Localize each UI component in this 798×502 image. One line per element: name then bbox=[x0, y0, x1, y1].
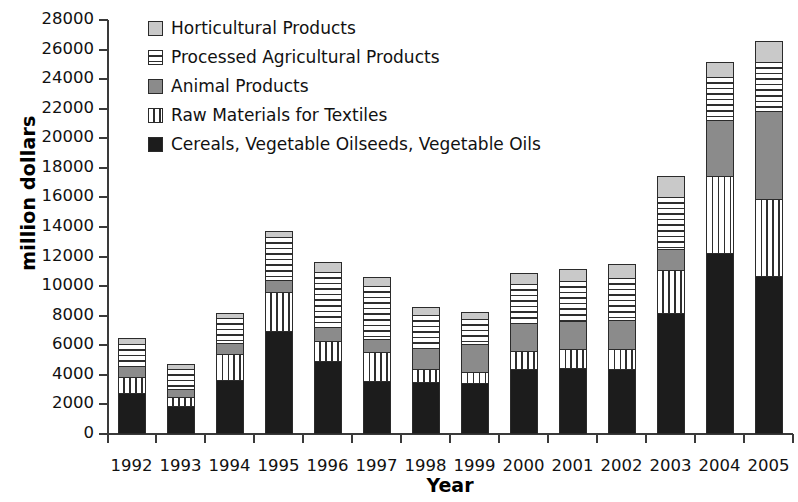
legend-swatch-icon bbox=[148, 79, 163, 94]
x-axis-tick-label: 1997 bbox=[356, 456, 398, 475]
stacked-bar-chart: million dollars 020004000600080001000012… bbox=[0, 0, 798, 502]
x-axis-tick bbox=[302, 434, 304, 443]
bar-segment bbox=[363, 352, 391, 382]
bar-segment bbox=[559, 321, 587, 349]
bar-segment bbox=[265, 331, 293, 434]
x-axis-tick-label: 1996 bbox=[307, 456, 349, 475]
bar-segment bbox=[706, 77, 734, 121]
y-axis-tick-label: 24000 bbox=[42, 68, 95, 87]
bar-segment bbox=[167, 369, 195, 391]
y-axis-title: million dollars bbox=[17, 93, 39, 293]
bar-segment bbox=[510, 284, 538, 323]
y-axis-tick-label: 20000 bbox=[42, 127, 95, 146]
bar-segment bbox=[510, 369, 538, 434]
bar-segment bbox=[559, 269, 587, 283]
legend-item: Processed Agricultural Products bbox=[148, 43, 541, 72]
bar-segment bbox=[755, 199, 783, 277]
legend-item: Raw Materials for Textiles bbox=[148, 101, 541, 130]
bar-segment bbox=[412, 369, 440, 383]
bar-segment bbox=[559, 368, 587, 434]
bar-segment bbox=[559, 349, 587, 369]
x-axis-title: Year bbox=[107, 474, 793, 496]
y-axis-tick-label: 6000 bbox=[52, 334, 94, 353]
x-axis-tick bbox=[351, 434, 353, 443]
bar-segment bbox=[363, 286, 391, 340]
x-axis-tick bbox=[645, 434, 647, 443]
bar-2005 bbox=[755, 42, 783, 434]
bar-2001 bbox=[559, 270, 587, 434]
bar-1998 bbox=[412, 308, 440, 434]
bar-segment bbox=[559, 281, 587, 322]
x-axis-tick-label: 2005 bbox=[748, 456, 790, 475]
bar-1997 bbox=[363, 278, 391, 434]
x-axis-tick-label: 2000 bbox=[503, 456, 545, 475]
bar-segment bbox=[755, 41, 783, 63]
legend-swatch-icon bbox=[148, 50, 163, 65]
x-axis-tick-label: 1998 bbox=[405, 456, 447, 475]
x-axis-tick bbox=[547, 434, 549, 443]
y-axis-tick: 6000 bbox=[99, 344, 108, 346]
legend-swatch-icon bbox=[148, 21, 163, 36]
bar-segment bbox=[755, 276, 783, 434]
bar-segment bbox=[657, 270, 685, 314]
y-axis-tick: 10000 bbox=[99, 285, 108, 287]
legend-swatch-icon bbox=[148, 137, 163, 152]
x-axis-tick bbox=[743, 434, 745, 443]
y-axis-tick: 14000 bbox=[99, 226, 108, 228]
chart-legend: Horticultural ProductsProcessed Agricult… bbox=[148, 14, 541, 159]
x-axis-tick bbox=[253, 434, 255, 443]
bar-segment bbox=[118, 393, 146, 434]
y-axis-tick: 22000 bbox=[99, 108, 108, 110]
bar-2004 bbox=[706, 63, 734, 434]
x-axis-tick bbox=[694, 434, 696, 443]
y-axis-tick: 18000 bbox=[99, 167, 108, 169]
bar-segment bbox=[461, 344, 489, 373]
x-axis-tick bbox=[204, 434, 206, 443]
y-axis-tick-label: 10000 bbox=[42, 275, 95, 294]
bar-2002 bbox=[608, 265, 636, 434]
bar-segment bbox=[314, 361, 342, 434]
y-axis-tick: 8000 bbox=[99, 315, 108, 317]
y-axis-tick-label: 18000 bbox=[42, 157, 95, 176]
x-axis-tick bbox=[155, 434, 157, 443]
legend-swatch-icon bbox=[148, 108, 163, 123]
legend-item-label: Raw Materials for Textiles bbox=[171, 106, 387, 125]
bar-segment bbox=[118, 344, 146, 368]
bar-segment bbox=[412, 348, 440, 370]
bar-1993 bbox=[167, 365, 195, 434]
bar-segment bbox=[314, 272, 342, 328]
y-axis-tick: 24000 bbox=[99, 78, 108, 80]
x-axis-tick bbox=[498, 434, 500, 443]
bar-segment bbox=[265, 292, 293, 332]
legend-item: Horticultural Products bbox=[148, 14, 541, 43]
x-axis-tick bbox=[596, 434, 598, 443]
legend-item-label: Cereals, Vegetable Oilseeds, Vegetable O… bbox=[171, 135, 541, 154]
y-axis-tick: 28000 bbox=[99, 19, 108, 21]
bar-segment bbox=[657, 249, 685, 271]
x-axis-tick bbox=[400, 434, 402, 443]
bar-segment bbox=[608, 264, 636, 279]
x-axis-tick-label: 1999 bbox=[454, 456, 496, 475]
y-axis-tick-label: 28000 bbox=[42, 9, 95, 28]
y-axis-tick-label: 8000 bbox=[52, 305, 94, 324]
y-axis-tick: 12000 bbox=[99, 256, 108, 258]
x-axis-tick-label: 2003 bbox=[650, 456, 692, 475]
x-axis-tick bbox=[107, 434, 109, 443]
bar-segment bbox=[657, 313, 685, 434]
bar-segment bbox=[510, 323, 538, 352]
bar-1994 bbox=[216, 314, 244, 434]
bar-segment bbox=[706, 176, 734, 254]
x-axis-tick-label: 1993 bbox=[160, 456, 202, 475]
bar-segment bbox=[755, 111, 783, 201]
legend-item-label: Processed Agricultural Products bbox=[171, 48, 440, 67]
y-axis-tick: 20000 bbox=[99, 137, 108, 139]
bar-segment bbox=[461, 383, 489, 434]
x-axis-tick-label: 1994 bbox=[209, 456, 251, 475]
y-axis-tick-label: 22000 bbox=[42, 98, 95, 117]
bar-segment bbox=[657, 176, 685, 198]
bar-segment bbox=[608, 349, 636, 369]
y-axis-tick-label: 14000 bbox=[42, 216, 95, 235]
x-axis-tick-label: 2004 bbox=[699, 456, 741, 475]
bar-1992 bbox=[118, 339, 146, 434]
x-axis-tick-label: 2002 bbox=[601, 456, 643, 475]
